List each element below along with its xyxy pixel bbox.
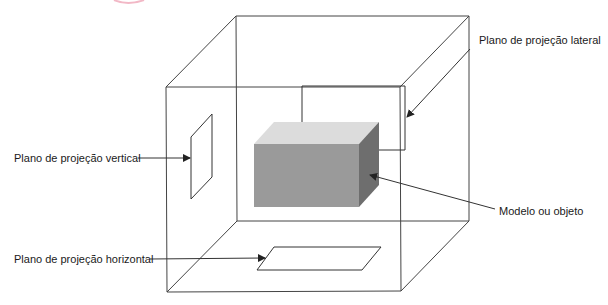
- arrow-lateral: [407, 49, 470, 117]
- decorative-arc: [114, 0, 144, 3]
- model-box: [254, 122, 379, 207]
- label-vertical-plane: Plano de projeção vertical: [14, 152, 141, 165]
- vertical-plane: [191, 114, 212, 199]
- label-lateral-plane: Plano de projeção lateral: [479, 34, 601, 47]
- label-horizontal-plane: Plano de projeção horizontal: [14, 253, 153, 266]
- horizontal-plane: [257, 247, 381, 270]
- arrow-model: [370, 175, 495, 209]
- box-top-face: [254, 122, 379, 144]
- box-front-face: [254, 144, 359, 207]
- label-model: Modelo ou objeto: [499, 205, 583, 218]
